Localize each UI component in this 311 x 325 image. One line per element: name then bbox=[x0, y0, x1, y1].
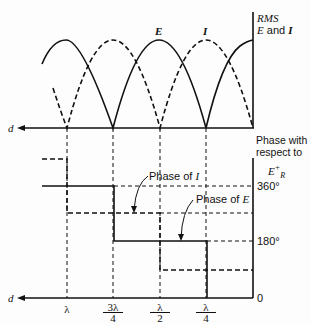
tick-lambda: λ bbox=[57, 304, 77, 314]
tick-lambda-4: λ4 bbox=[196, 302, 216, 323]
diagram-graphics bbox=[0, 0, 311, 325]
tick-0: 0 bbox=[257, 292, 263, 304]
tick-lambda-2: λ2 bbox=[150, 302, 170, 323]
bottom-d-label: d bbox=[8, 292, 14, 304]
phase-E-label: Phase of E bbox=[196, 193, 249, 205]
phase-axis-reference: E+R bbox=[268, 162, 285, 182]
phase-axis-label-line1: Phase with bbox=[256, 134, 307, 146]
curve-label-I: I bbox=[203, 25, 207, 37]
tick-3lambda-4: 3λ4 bbox=[103, 302, 123, 323]
rms-axis-label-line2: E and I bbox=[257, 24, 292, 36]
phase-I-leader bbox=[134, 176, 148, 210]
curve-label-E: E bbox=[155, 25, 162, 37]
phase-axis-label-line2: respect to bbox=[256, 146, 302, 158]
standing-wave-diagram: RMS E and I E I d Phase with respect to … bbox=[0, 0, 311, 325]
rms-I-curve bbox=[53, 40, 253, 128]
phase-I-label: Phase of I bbox=[149, 170, 199, 182]
rms-E-curve bbox=[42, 40, 253, 128]
tick-180: 180° bbox=[257, 235, 280, 247]
top-axis-arrow-icon bbox=[17, 125, 25, 131]
phase-I-arrow-icon bbox=[131, 206, 137, 213]
bottom-axis-arrow-icon bbox=[17, 295, 25, 301]
rms-axis-label-line1: RMS bbox=[257, 12, 278, 24]
phase-E-arrow-icon bbox=[178, 234, 184, 241]
phase-I-step bbox=[42, 159, 253, 270]
phase-E-leader bbox=[181, 200, 193, 238]
tick-360: 360° bbox=[257, 180, 280, 192]
top-d-label: d bbox=[8, 122, 14, 134]
